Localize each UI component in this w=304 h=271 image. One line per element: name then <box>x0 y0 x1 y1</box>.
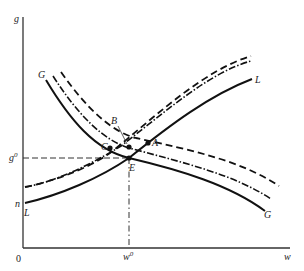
point-A <box>145 140 150 145</box>
curve-L-dashdot <box>25 61 251 187</box>
diagram-canvas: g w 0 w0 g0 n G G L L A B C E <box>0 0 304 271</box>
curve-G-dashdot <box>53 76 271 199</box>
g0-label: g0 <box>9 151 18 163</box>
w0-label: w0 <box>123 250 134 262</box>
L-curve-end-label: L <box>254 74 261 85</box>
G-curve-end-label: G <box>264 209 271 220</box>
L-curve-start-label: L <box>23 207 30 218</box>
point-C <box>107 145 112 150</box>
point-A-label: A <box>151 137 159 148</box>
point-B <box>126 144 131 149</box>
y-axis-label: g <box>14 13 19 24</box>
point-B-label: B <box>111 115 117 126</box>
G-curve-start-label: G <box>38 69 45 80</box>
point-E <box>126 155 131 160</box>
curve-L-dashed <box>25 56 251 187</box>
point-E-label: E <box>128 162 135 173</box>
origin-label: 0 <box>16 253 21 264</box>
n-intercept-label: n <box>15 198 20 209</box>
x-axis-label: w <box>284 251 291 262</box>
point-C-label: C <box>101 141 108 152</box>
